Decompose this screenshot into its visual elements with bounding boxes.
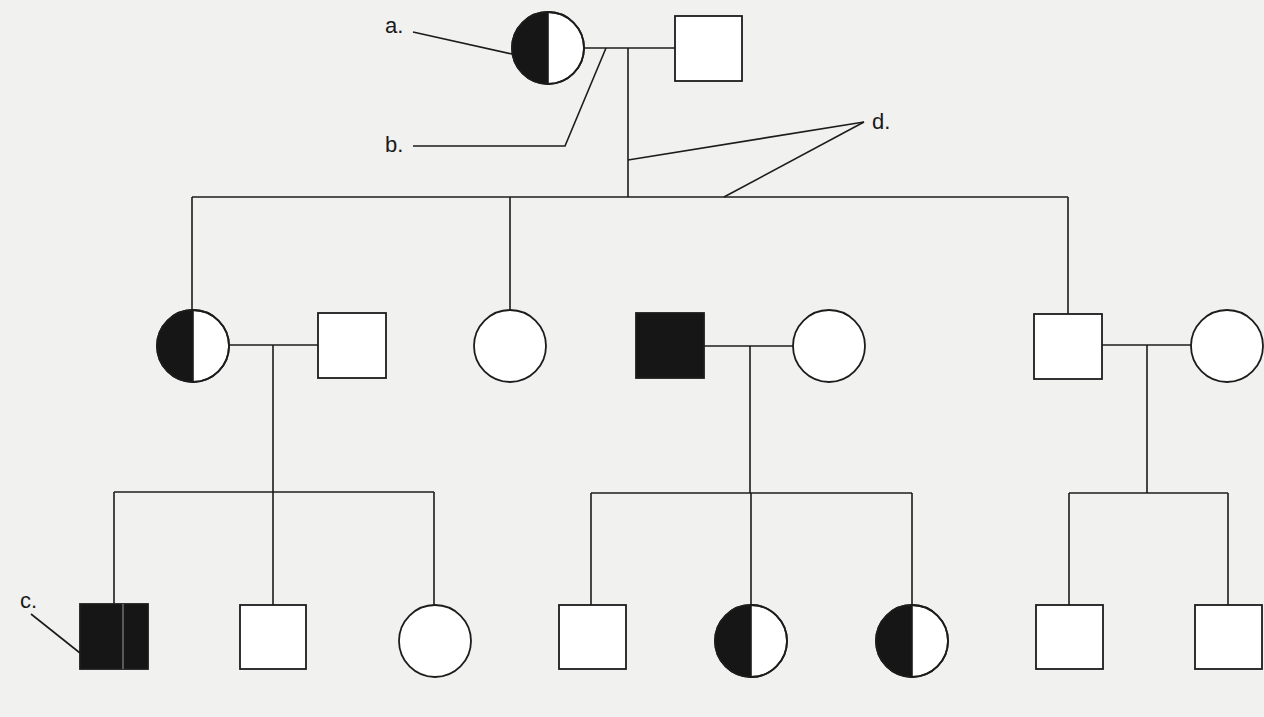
- pedigree-diagram: a. b. c. d.: [0, 0, 1264, 717]
- generation-2: [157, 310, 1263, 493]
- female-unaffected-III-3: [399, 605, 471, 677]
- female-unaffected-II-3: [474, 310, 546, 382]
- label-c: c.: [20, 588, 37, 613]
- label-d: d.: [872, 109, 890, 134]
- male-unaffected-I-2: [675, 16, 742, 81]
- female-carrier-III-5: [715, 605, 787, 677]
- male-unaffected-II-2: [318, 313, 386, 378]
- male-unaffected-III-2: [240, 605, 306, 669]
- pointer-a: [413, 32, 512, 54]
- female-carrier-III-6: [876, 605, 948, 677]
- label-b: b.: [385, 132, 403, 157]
- female-carrier-II-1: [157, 310, 229, 382]
- male-unaffected-III-7: [1036, 605, 1103, 669]
- female-unaffected-II-7: [1191, 310, 1263, 382]
- male-unaffected-III-8: [1195, 605, 1262, 669]
- female-carrier-I-1: [512, 12, 584, 84]
- generation-3: [80, 492, 1262, 677]
- male-unaffected-II-6: [1034, 314, 1102, 379]
- annotations: a. b. c. d.: [20, 13, 890, 653]
- male-affected-II-4: [636, 313, 704, 378]
- male-unaffected-III-4: [559, 605, 626, 669]
- pointer-c: [31, 614, 80, 653]
- generation-1: [512, 12, 742, 197]
- female-unaffected-II-5: [793, 310, 865, 382]
- label-a: a.: [385, 13, 403, 38]
- male-affected-III-1: [80, 604, 148, 669]
